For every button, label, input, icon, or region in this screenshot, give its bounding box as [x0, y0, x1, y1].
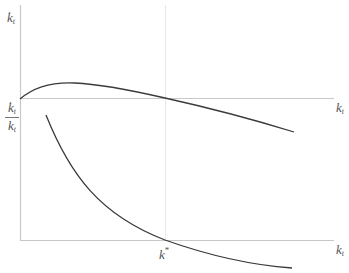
phase-diagram — [0, 0, 349, 273]
upper-x-axis-label: kt — [336, 101, 344, 116]
capital-change-curve — [20, 83, 294, 132]
fraction-numerator: ·kt — [8, 101, 16, 116]
time-derivative-dot: · — [8, 8, 11, 18]
fraction-denominator: kt — [8, 119, 16, 134]
steady-state-label: k* — [159, 246, 169, 261]
upper-y-axis-label: ·kt — [7, 11, 15, 26]
lower-y-axis-label: ·kt kt — [5, 101, 19, 134]
lower-x-axis-label: kt — [336, 243, 344, 258]
